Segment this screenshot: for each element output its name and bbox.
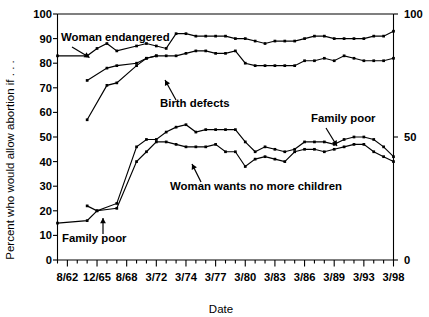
data-point — [382, 145, 385, 148]
data-point — [204, 50, 207, 53]
series — [86, 123, 395, 212]
data-point — [195, 35, 198, 38]
data-point — [333, 59, 336, 62]
data-point — [244, 62, 247, 65]
y-axis-title: Percent who would allow abortion if . . … — [4, 60, 16, 259]
data-point — [363, 59, 366, 62]
data-point — [343, 138, 346, 141]
x-tick-label: 3/86 — [294, 271, 316, 283]
data-point — [264, 64, 267, 67]
annotation-layer: Woman endangeredBirth defectsFamily poor… — [61, 31, 376, 244]
data-point — [234, 150, 237, 153]
data-point — [145, 57, 148, 60]
y-tick-label-right: 0 — [404, 254, 410, 266]
data-point — [363, 143, 366, 146]
y-tick-label-right: 100 — [404, 8, 423, 20]
data-point — [214, 143, 217, 146]
series-layer — [56, 30, 395, 225]
data-point — [303, 59, 306, 62]
data-point — [96, 209, 99, 212]
y-tick-label: 60 — [40, 106, 52, 118]
data-point — [313, 148, 316, 151]
data-point — [195, 50, 198, 53]
data-point — [303, 148, 306, 151]
data-point — [293, 148, 296, 151]
data-point — [224, 128, 227, 131]
annotation-woman-wants-no-more: Woman wants no more children — [170, 180, 342, 192]
data-point — [214, 128, 217, 131]
data-point — [135, 64, 138, 67]
data-point — [264, 42, 267, 45]
data-point — [155, 141, 158, 144]
x-tick-label: 3/74 — [175, 271, 198, 283]
x-tick-label: 8/68 — [116, 271, 138, 283]
data-point — [135, 145, 138, 148]
data-point — [165, 141, 168, 144]
data-point — [234, 128, 237, 131]
x-tick-label: 12/65 — [83, 271, 111, 283]
data-point — [392, 160, 395, 163]
data-point — [115, 50, 118, 53]
data-point — [392, 57, 395, 60]
line-chart: Percent who would allow abortion if . . … — [0, 0, 429, 317]
data-point — [195, 145, 198, 148]
data-point — [185, 52, 188, 55]
data-point — [274, 148, 277, 151]
data-point — [353, 37, 356, 40]
y-tick-label: 30 — [40, 180, 52, 192]
data-point — [224, 35, 227, 38]
x-axis-labels: 8/6212/658/683/723/743/773/803/833/863/8… — [56, 271, 404, 283]
data-point — [333, 148, 336, 151]
data-point — [115, 64, 118, 67]
data-point — [392, 30, 395, 33]
data-point — [185, 123, 188, 126]
data-point — [254, 158, 257, 161]
data-point — [145, 138, 148, 141]
y-tick-label: 20 — [40, 205, 52, 217]
annotation-family-poor-lower: Family poor — [62, 232, 127, 244]
data-point — [323, 57, 326, 60]
y-tick-label: 80 — [40, 57, 52, 69]
annotation-woman-endangered: Woman endangered — [61, 31, 170, 43]
data-point — [234, 50, 237, 53]
x-tick-label: 3/80 — [234, 271, 256, 283]
data-point — [244, 165, 247, 168]
data-point — [135, 160, 138, 163]
data-point — [293, 40, 296, 43]
data-point — [323, 35, 326, 38]
data-point — [283, 64, 286, 67]
data-point — [363, 37, 366, 40]
y-tick-label: 90 — [40, 33, 52, 45]
annotation-family-poor-upper: Family poor — [311, 112, 376, 124]
data-point — [56, 54, 59, 57]
data-point — [372, 150, 375, 153]
x-tick-label: 3/72 — [145, 271, 167, 283]
data-point — [343, 54, 346, 57]
data-point — [204, 128, 207, 131]
x-tick-label: 3/93 — [353, 271, 375, 283]
data-point — [175, 143, 178, 146]
series — [86, 50, 395, 82]
data-point — [155, 54, 158, 57]
data-point — [343, 37, 346, 40]
data-point — [165, 47, 168, 50]
data-point — [343, 145, 346, 148]
x-tick-label: 3/89 — [323, 271, 345, 283]
annotation-birth-defects: Birth defects — [160, 97, 230, 109]
data-point — [372, 35, 375, 38]
data-point — [372, 138, 375, 141]
data-point — [86, 219, 89, 222]
data-point — [185, 145, 188, 148]
y-tick-label: 10 — [40, 229, 52, 241]
data-point — [254, 40, 257, 43]
data-point — [283, 150, 286, 153]
data-point — [135, 62, 138, 65]
data-point — [56, 222, 59, 225]
y-tick-label: 0 — [46, 254, 52, 266]
data-point — [175, 126, 178, 129]
data-point — [382, 35, 385, 38]
y-tick-label-right: 50 — [404, 131, 416, 143]
data-point — [115, 202, 118, 205]
axes — [53, 14, 398, 267]
data-point — [155, 45, 158, 48]
